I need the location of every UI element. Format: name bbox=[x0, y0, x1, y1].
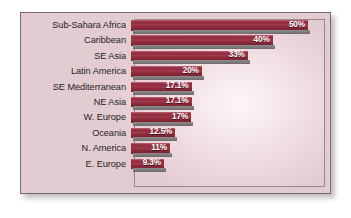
bar-zone: 9.3% bbox=[131, 159, 332, 174]
bar-rows: Sub-Sahara Africa 50% Caribbean 40% bbox=[21, 20, 332, 180]
bar-shadow bbox=[133, 76, 204, 80]
bar-row: Oceania 12.5% bbox=[21, 128, 332, 143]
category-label: SE Asia bbox=[21, 51, 131, 62]
bar-zone: 40% bbox=[131, 35, 332, 50]
bar-zone: 11% bbox=[131, 143, 332, 158]
category-label: NE Asia bbox=[21, 97, 131, 108]
chart-figure: Sub-Sahara Africa 50% Caribbean 40% bbox=[0, 0, 351, 218]
bar-wrap: 33% bbox=[131, 51, 248, 65]
bar-shadow bbox=[133, 122, 193, 126]
bar-shadow bbox=[133, 168, 166, 172]
category-label: N. America bbox=[21, 143, 131, 154]
bar-wrap: 17.1% bbox=[131, 82, 192, 96]
bar-zone: 17% bbox=[131, 112, 332, 127]
bar-zone: 33% bbox=[131, 51, 332, 66]
bar-row: E. Europe 9.3% bbox=[21, 159, 332, 174]
bar-row: SE Asia 33% bbox=[21, 51, 332, 66]
bar-wrap: 40% bbox=[131, 35, 273, 49]
bar-row: N. America 11% bbox=[21, 143, 332, 158]
bar-value-label: 20% bbox=[183, 66, 199, 76]
bar-value-label: 33% bbox=[229, 50, 245, 60]
bar-wrap: 9.3% bbox=[131, 159, 164, 173]
category-label: Sub-Sahara Africa bbox=[21, 20, 131, 31]
bar-zone: 17.1% bbox=[131, 97, 332, 112]
bar-row: Latin America 20% bbox=[21, 66, 332, 81]
bar-value-label: 17.1% bbox=[166, 81, 189, 91]
bar-value-label: 12.5% bbox=[150, 127, 173, 137]
bar-value-label: 17.1% bbox=[166, 96, 189, 106]
category-label: Caribbean bbox=[21, 35, 131, 46]
bar-wrap: 12.5% bbox=[131, 128, 175, 142]
bar-zone: 50% bbox=[131, 20, 332, 35]
bar-shadow bbox=[133, 91, 194, 95]
bar-wrap: 50% bbox=[131, 20, 308, 34]
bar-zone: 20% bbox=[131, 66, 332, 81]
bar-row: Caribbean 40% bbox=[21, 35, 332, 50]
bar-wrap: 17% bbox=[131, 112, 191, 126]
bar-row: SE Mediterranean 17.1% bbox=[21, 82, 332, 97]
category-label: SE Mediterranean bbox=[21, 82, 131, 93]
bar-shadow bbox=[133, 137, 177, 141]
bar-zone: 17.1% bbox=[131, 82, 332, 97]
bar-zone: 12.5% bbox=[131, 128, 332, 143]
bar-row: Sub-Sahara Africa 50% bbox=[21, 20, 332, 35]
category-label: Latin America bbox=[21, 66, 131, 77]
bar-shadow bbox=[133, 60, 250, 64]
category-label: E. Europe bbox=[21, 159, 131, 170]
bar-row: NE Asia 17.1% bbox=[21, 97, 332, 112]
bar-wrap: 17.1% bbox=[131, 97, 192, 111]
bar-shadow bbox=[133, 106, 194, 110]
bar-shadow bbox=[133, 153, 172, 157]
chart-card: Sub-Sahara Africa 50% Caribbean 40% bbox=[20, 12, 331, 194]
bar-value-label: 11% bbox=[151, 143, 167, 153]
bar-value-label: 50% bbox=[289, 20, 305, 30]
bar-value-label: 9.3% bbox=[143, 158, 161, 168]
bar-wrap: 11% bbox=[131, 143, 170, 157]
bar-shadow bbox=[133, 45, 275, 49]
bar-value-label: 40% bbox=[254, 35, 270, 45]
bar-wrap: 20% bbox=[131, 66, 202, 80]
bar-shadow bbox=[133, 30, 310, 34]
bar-value-label: 17% bbox=[172, 112, 188, 122]
category-label: W. Europe bbox=[21, 112, 131, 123]
bar-row: W. Europe 17% bbox=[21, 112, 332, 127]
category-label: Oceania bbox=[21, 128, 131, 139]
